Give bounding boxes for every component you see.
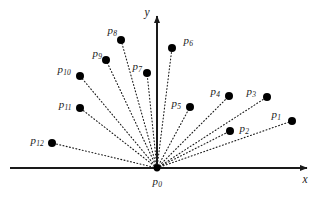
point-label-base: p	[171, 97, 177, 109]
point-label-p11: p11	[59, 99, 71, 110]
data-point-p4[interactable]	[225, 92, 233, 100]
ray-line-p1	[157, 121, 292, 168]
point-label-base: p	[246, 85, 252, 97]
data-point-p7[interactable]	[143, 69, 151, 77]
point-label-p6: p6	[183, 35, 192, 46]
diagram-canvas	[0, 0, 320, 199]
point-label-p1: p1	[271, 109, 280, 120]
ray-line-p6	[157, 48, 172, 168]
data-point-p10[interactable]	[76, 72, 84, 80]
ray-line-p7	[147, 73, 157, 168]
point-label-subscript: 4	[216, 90, 220, 99]
point-label-base: p	[210, 85, 216, 97]
ray-line-p10	[80, 76, 157, 168]
point-label-subscript: 1	[277, 113, 281, 122]
y-axis-label: y	[144, 7, 149, 19]
data-point-p12[interactable]	[48, 139, 56, 147]
point-label-subscript: 3	[252, 90, 256, 99]
polar-angle-diagram: p1p2p3p4p5p6p7p8p9p10p11p12p0 x y	[0, 0, 320, 199]
point-label-base: p	[271, 108, 277, 120]
point-label-p12: p12	[31, 135, 44, 146]
point-label-p0: p0	[152, 176, 161, 187]
point-label-subscript: 2	[245, 127, 249, 136]
point-label-p4: p4	[210, 86, 219, 97]
point-label-base: p	[31, 134, 37, 146]
data-point-p11[interactable]	[76, 104, 84, 112]
point-label-subscript: 9	[98, 52, 102, 61]
point-label-p5: p5	[171, 98, 180, 109]
point-label-subscript: 6	[189, 39, 193, 48]
point-label-subscript: 5	[177, 102, 181, 111]
point-label-base: p	[107, 24, 113, 36]
ray-line-p5	[157, 107, 190, 168]
data-point-p6[interactable]	[168, 44, 176, 52]
ray-line-p8	[121, 40, 157, 168]
data-point-p3[interactable]	[263, 93, 271, 101]
point-label-p2: p2	[239, 123, 248, 134]
point-label-base: p	[58, 63, 64, 75]
data-point-p2[interactable]	[226, 127, 234, 135]
point-label-subscript: 10	[63, 68, 71, 77]
x-axis-label: x	[302, 174, 307, 186]
data-point-p0[interactable]	[154, 165, 161, 172]
point-label-p7: p7	[132, 61, 141, 72]
point-label-base: p	[152, 175, 158, 187]
point-label-p8: p8	[107, 25, 116, 36]
data-point-p1[interactable]	[288, 117, 296, 125]
data-point-p8[interactable]	[117, 36, 125, 44]
point-label-base: p	[183, 34, 189, 46]
point-label-base: p	[59, 98, 65, 110]
data-point-p9[interactable]	[102, 56, 110, 64]
point-label-base: p	[92, 47, 98, 59]
point-label-p3: p3	[246, 86, 255, 97]
point-label-subscript: 7	[138, 65, 142, 74]
point-label-subscript: 11	[65, 103, 72, 112]
point-label-p9: p9	[92, 48, 101, 59]
ray-line-p2	[157, 131, 230, 168]
point-label-subscript: 12	[36, 139, 44, 148]
point-label-p10: p10	[58, 64, 71, 75]
point-label-base: p	[132, 60, 138, 72]
point-label-subscript: 0	[158, 180, 162, 189]
point-label-base: p	[239, 122, 245, 134]
data-point-p5[interactable]	[186, 103, 194, 111]
point-label-subscript: 8	[113, 29, 117, 38]
